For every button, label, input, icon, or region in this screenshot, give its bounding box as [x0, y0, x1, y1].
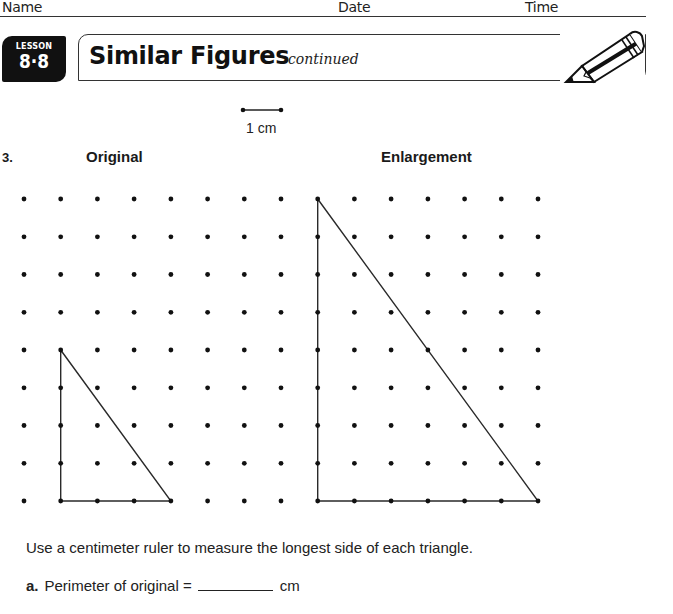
grid-dot [22, 385, 27, 390]
grid-dot [22, 461, 27, 466]
grid-dot [462, 234, 467, 239]
instructions: Use a centimeter ruler to measure the lo… [26, 539, 473, 556]
grid-dot [132, 423, 137, 428]
grid-dot [352, 272, 357, 277]
grid-dot [242, 234, 247, 239]
grid-dot [132, 310, 137, 315]
grid-dot [205, 499, 210, 504]
grid-dot [95, 234, 100, 239]
grid-dot [242, 310, 247, 315]
grid-dot [279, 234, 284, 239]
grid-dot [95, 310, 100, 315]
grid-dot [279, 385, 284, 390]
grid-dot [462, 348, 467, 353]
grid-dot [315, 461, 320, 466]
grid-dot [536, 461, 541, 466]
grid-dot [536, 499, 541, 504]
grid-dot [22, 348, 27, 353]
grid-dot [389, 272, 394, 277]
grid-dot [315, 423, 320, 428]
grid-dot [426, 348, 431, 353]
grid-dot [389, 348, 394, 353]
grid-dot [499, 423, 504, 428]
grid-dot [205, 348, 210, 353]
grid-dot [389, 499, 394, 504]
grid-dot [242, 461, 247, 466]
grid-dot [58, 499, 63, 504]
grid-dot [315, 234, 320, 239]
grid-dot [22, 197, 27, 202]
grid-dot [58, 272, 63, 277]
grid-dot [499, 499, 504, 504]
grid-dot [279, 272, 284, 277]
grid-dot [389, 197, 394, 202]
grid-dot [315, 348, 320, 353]
grid-dot [169, 310, 174, 315]
grid-dot [169, 423, 174, 428]
grid-dot [352, 499, 357, 504]
grid-dot [132, 499, 137, 504]
grid-dot [462, 197, 467, 202]
grid-dot [132, 197, 137, 202]
grid-dot [499, 234, 504, 239]
grid-dot [279, 461, 284, 466]
grid-dot [279, 197, 284, 202]
question-text: Perimeter of original = [45, 577, 192, 594]
grid-dot [536, 348, 541, 353]
grid-dot [205, 234, 210, 239]
grid-dot [462, 499, 467, 504]
grid-dot [389, 310, 394, 315]
grid-dot [95, 197, 100, 202]
grid-dot [315, 272, 320, 277]
grid-dot [389, 385, 394, 390]
grid-dot [426, 385, 431, 390]
grid-dot [352, 461, 357, 466]
grid-dot [205, 310, 210, 315]
grid-dot [95, 499, 100, 504]
grid-dot [462, 461, 467, 466]
grid-dot [536, 234, 541, 239]
grid-dot [95, 385, 100, 390]
grid-dot [205, 272, 210, 277]
grid-dot [58, 385, 63, 390]
grid-dot [499, 197, 504, 202]
question-letter: a. [26, 577, 39, 594]
grid-dot [426, 272, 431, 277]
grid-dot [205, 197, 210, 202]
grid-dot [426, 310, 431, 315]
grid-dot [352, 310, 357, 315]
grid-dot [426, 461, 431, 466]
question-a: a.Perimeter of original =cm [26, 576, 300, 594]
grid-dot [242, 499, 247, 504]
grid-dot [426, 423, 431, 428]
grid-dot [169, 499, 174, 504]
grid-dot [462, 423, 467, 428]
triangle [61, 350, 171, 501]
grid-dot [205, 385, 210, 390]
grid-dot [462, 310, 467, 315]
grid-dot [22, 234, 27, 239]
grid-dot [132, 234, 137, 239]
grid-dot [205, 423, 210, 428]
grid-dot [499, 461, 504, 466]
grid-dot [352, 234, 357, 239]
grid-dot [279, 423, 284, 428]
grid-dot [169, 272, 174, 277]
grid-dot [58, 423, 63, 428]
unit-label: cm [280, 577, 300, 594]
grid-dot [169, 234, 174, 239]
grid-dot [499, 348, 504, 353]
grid-dot [426, 499, 431, 504]
grid-dot [536, 272, 541, 277]
grid-dot [536, 423, 541, 428]
grid-dot [536, 197, 541, 202]
grid-dot [536, 385, 541, 390]
answer-blank[interactable] [198, 576, 273, 591]
grid-dot [95, 348, 100, 353]
grid-dot [389, 234, 394, 239]
grid-dot [279, 348, 284, 353]
grid-dot [499, 385, 504, 390]
grid-dot [389, 461, 394, 466]
grid-dot [132, 348, 137, 353]
grid-dot [242, 272, 247, 277]
